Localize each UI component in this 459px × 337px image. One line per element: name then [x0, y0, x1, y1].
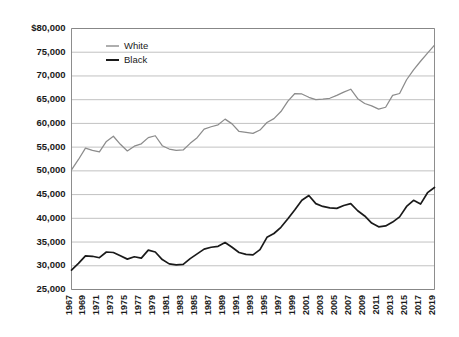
- x-axis-tick-label: 1989: [217, 295, 227, 315]
- x-axis-tick-label: 1987: [203, 295, 213, 315]
- x-axis-tick-label: 1995: [259, 295, 269, 315]
- legend-label-black: Black: [124, 54, 147, 65]
- legend-label-white: White: [124, 40, 148, 51]
- x-axis-tick-label: 1991: [231, 295, 241, 315]
- x-axis-tick-label: 2009: [357, 295, 367, 315]
- x-axis-tick-label: 2005: [329, 295, 339, 315]
- y-axis-tick-label: 75,000: [36, 46, 65, 57]
- series-line-black: [72, 187, 435, 270]
- x-axis-tick-label: 1977: [133, 295, 143, 315]
- y-axis-tick-label: 35,000: [36, 236, 65, 247]
- y-axis-tick-label: 40,000: [36, 212, 65, 223]
- x-axis-tick-labels: 1967196919711973197519771979198119831985…: [64, 295, 437, 315]
- x-axis-tick-label: 2007: [343, 295, 353, 315]
- x-axis-tick-label: 1979: [147, 295, 157, 315]
- x-axis-tick-label: 1997: [273, 295, 283, 315]
- y-axis-tick-label: 30,000: [36, 259, 65, 270]
- x-axis-tick-label: 1975: [119, 295, 129, 315]
- x-axis-tick-label: 2003: [315, 295, 325, 315]
- data-series: [72, 45, 435, 270]
- gridlines: [72, 29, 435, 290]
- y-axis-tick-label: 50,000: [36, 164, 65, 175]
- y-axis-tick-label: 55,000: [36, 141, 65, 152]
- x-axis-tick-label: 1981: [161, 295, 171, 315]
- x-axis-tick-label: 1971: [91, 295, 101, 315]
- x-axis-tick-label: 1985: [189, 295, 199, 315]
- x-axis-tick-label: 2001: [301, 295, 311, 315]
- x-axis-tick-label: 1973: [105, 295, 115, 315]
- y-axis-tick-label: 45,000: [36, 188, 65, 199]
- y-axis-tick-labels: $80,00075,00070,00065,00060,00055,00050,…: [31, 22, 65, 294]
- y-axis-tick-label: 25,000: [36, 283, 65, 294]
- x-axis-tick-label: 2019: [427, 295, 437, 315]
- y-axis-tick-label: 65,000: [36, 93, 65, 104]
- income-line-chart: $80,00075,00070,00065,00060,00055,00050,…: [0, 0, 459, 337]
- y-axis-tick-label: $80,000: [31, 22, 65, 33]
- axis-lines: [72, 29, 435, 290]
- y-axis-tick-label: 70,000: [36, 69, 65, 80]
- x-axis-tick-label: 2015: [399, 295, 409, 315]
- y-axis-tick-label: 60,000: [36, 117, 65, 128]
- x-axis-tick-label: 2017: [413, 295, 423, 315]
- x-axis-tick-label: 1969: [77, 295, 87, 315]
- x-axis-tick-label: 2013: [385, 295, 395, 315]
- chart-canvas: $80,00075,00070,00065,00060,00055,00050,…: [0, 0, 459, 337]
- x-axis-tick-label: 1999: [287, 295, 297, 315]
- x-axis-tick-label: 1967: [64, 295, 74, 315]
- x-axis-tick-label: 1983: [175, 295, 185, 315]
- x-axis-tick-label: 1993: [245, 295, 255, 315]
- x-axis-tick-label: 2011: [371, 295, 381, 315]
